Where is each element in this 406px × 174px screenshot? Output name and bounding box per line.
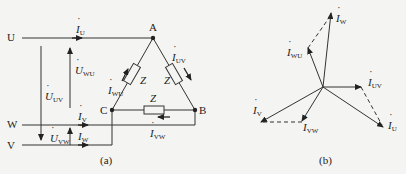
phasor-iwu <box>308 48 323 87</box>
node-a <box>151 36 155 40</box>
voltage-uuv-label: UUV <box>45 91 63 106</box>
impedance-z-vw: Z <box>150 93 156 104</box>
phasor-iu <box>323 87 383 127</box>
phasor-iw-label: IW <box>336 13 346 28</box>
terminal-v-label: V <box>7 140 15 151</box>
phasor-iwu-label: IWU <box>287 47 302 62</box>
three-phase-delta-diagram: U W V A C B Z Z Z IU IV IW IUV IWU IVW U… <box>0 0 406 174</box>
caption-b: (b) <box>319 155 332 166</box>
voltage-uvw-label: UVW <box>50 133 70 148</box>
terminal-u-label: U <box>7 32 15 43</box>
current-ivw-label: IVW <box>150 128 165 143</box>
terminal-w-label: W <box>7 119 17 130</box>
current-iwu-label: IWU <box>108 85 123 100</box>
voltage-uwu-label: UWU <box>75 65 95 80</box>
node-b-label: B <box>199 105 206 116</box>
current-iu-label: IU <box>76 24 85 39</box>
node-a-label: A <box>149 22 157 33</box>
phasor-iuv-label: IUV <box>368 77 382 92</box>
node-b <box>193 108 197 112</box>
node-c-label: C <box>100 105 107 116</box>
phasor-iu-label: IU <box>388 120 397 135</box>
impedance-z-uv: Z <box>164 75 170 86</box>
impedance-z-wu: Z <box>140 75 146 86</box>
current-iuv-label: IUV <box>172 52 186 67</box>
node-c <box>110 108 114 112</box>
caption-a: (a) <box>100 155 112 166</box>
phasor-iv <box>261 87 323 122</box>
impedance-vw <box>144 106 164 114</box>
current-iw-label: IW <box>78 131 88 146</box>
phasor-iv-label: IV <box>253 105 262 120</box>
phasor-ivw-label: IVW <box>303 122 318 137</box>
